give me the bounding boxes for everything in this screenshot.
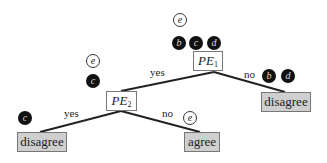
node-label: PE <box>112 93 128 109</box>
token-c: c <box>18 111 32 125</box>
split-node-pe2: PE2 <box>106 91 137 111</box>
edge-label-yes: yes <box>150 66 165 78</box>
edge-pe1-yes <box>121 72 214 91</box>
token-e: e <box>183 111 197 125</box>
token-c: c <box>86 74 100 88</box>
token-b: b <box>172 36 186 50</box>
leaf-disagree-left: disagree <box>17 132 67 152</box>
token-e: e <box>173 13 187 27</box>
token-d: d <box>281 69 295 83</box>
edge-pe2-yes <box>40 111 121 132</box>
token-b: b <box>262 69 276 83</box>
node-label: PE <box>198 53 214 69</box>
leaf-disagree-right: disagree <box>261 92 311 112</box>
edge-label-no: no <box>244 68 255 80</box>
edge-label-yes: yes <box>64 107 79 119</box>
token-d: d <box>207 36 221 50</box>
node-subscript: 2 <box>127 100 131 109</box>
split-node-pe1: PE1 <box>193 51 223 71</box>
node-subscript: 1 <box>214 60 218 69</box>
edge-label-no: no <box>162 107 173 119</box>
token-e: e <box>86 54 100 68</box>
leaf-agree: agree <box>184 132 220 152</box>
token-c: c <box>189 36 203 50</box>
